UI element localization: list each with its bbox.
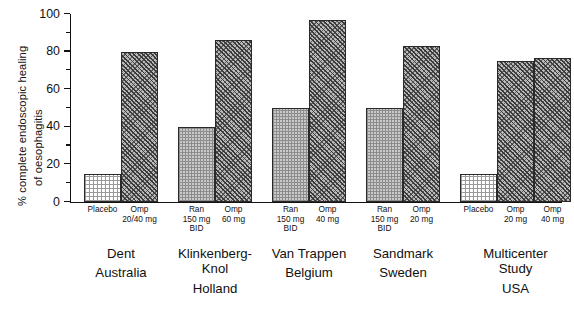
y-minor-tick-10 bbox=[66, 182, 70, 183]
group-author-2: Van Trappen bbox=[272, 246, 347, 261]
y-tick-label-0: 0 bbox=[26, 196, 60, 208]
bar-omp-4-1 bbox=[497, 61, 534, 202]
y-tick-80 bbox=[64, 50, 70, 51]
group-author-4: MulticenterStudy bbox=[483, 246, 548, 276]
plot-area: 020406080100 bbox=[70, 14, 562, 202]
group-caption-3: SandmarkSweden bbox=[341, 246, 465, 281]
bar-ran-2-0 bbox=[272, 108, 309, 202]
y-tick-40 bbox=[64, 126, 70, 127]
group-author-3: Sandmark bbox=[373, 246, 433, 261]
y-minor-tick-90 bbox=[66, 32, 70, 33]
x-axis-tick-labels: PlaceboOmp 20/40 mgRan 150 mg BIDOmp 60 … bbox=[70, 205, 562, 245]
x-tick-label-2-1: Omp 40 mg bbox=[300, 205, 355, 224]
y-tick-label-80: 80 bbox=[26, 45, 60, 57]
y-tick-60 bbox=[64, 88, 70, 89]
y-tick-0 bbox=[64, 201, 70, 202]
x-tick-label-4-2: Omp 40 mg bbox=[525, 205, 574, 224]
group-country-3: Sweden bbox=[341, 265, 465, 280]
group-author-1: Klinkenberg-Knol bbox=[178, 246, 252, 276]
bar-chart: % complete endoscopic healing of oesopha… bbox=[0, 0, 574, 313]
group-country-1: Holland bbox=[153, 281, 277, 296]
y-axis-label: % complete endoscopic healing of oesopha… bbox=[0, 0, 46, 215]
bar-omp-0-1 bbox=[121, 52, 158, 202]
bar-omp-4-2 bbox=[534, 58, 571, 202]
x-tick-label-0-1: Omp 20/40 mg bbox=[112, 205, 167, 224]
bar-ran-1-0 bbox=[178, 127, 215, 202]
y-axis bbox=[70, 14, 71, 202]
bar-omp-1-1 bbox=[215, 40, 252, 202]
bar-omp-3-1 bbox=[403, 46, 440, 202]
y-tick-100 bbox=[64, 13, 70, 14]
group-country-4: USA bbox=[454, 281, 574, 296]
y-tick-label-100: 100 bbox=[26, 8, 60, 20]
y-tick-label-20: 20 bbox=[26, 158, 60, 170]
y-tick-label-40: 40 bbox=[26, 120, 60, 132]
y-tick-20 bbox=[64, 163, 70, 164]
bar-placebo-0-0 bbox=[84, 174, 121, 202]
y-minor-tick-30 bbox=[66, 144, 70, 145]
x-tick-label-3-1: Omp 20 mg bbox=[394, 205, 449, 224]
x-tick-label-1-1: Omp 60 mg bbox=[206, 205, 261, 224]
y-minor-tick-70 bbox=[66, 69, 70, 70]
y-minor-tick-50 bbox=[66, 107, 70, 108]
bar-omp-2-1 bbox=[309, 20, 346, 202]
bar-ran-3-0 bbox=[366, 108, 403, 202]
group-author-0: Dent bbox=[107, 246, 135, 261]
group-captions: DentAustraliaKlinkenberg-KnolHollandVan … bbox=[70, 246, 562, 310]
group-caption-4: MulticenterStudyUSA bbox=[454, 246, 574, 296]
y-tick-label-60: 60 bbox=[26, 83, 60, 95]
bar-placebo-4-0 bbox=[460, 174, 497, 202]
